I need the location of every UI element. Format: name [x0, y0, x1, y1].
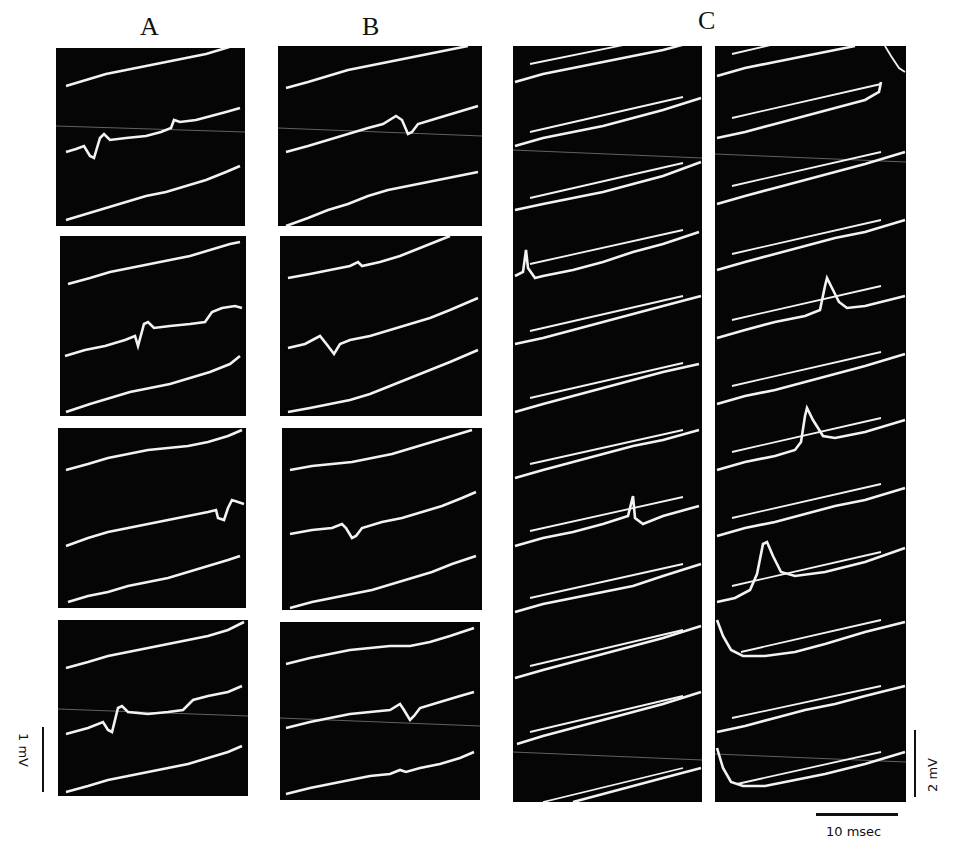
trace-group [282, 428, 482, 610]
panel-b-frame-3 [282, 428, 482, 610]
panel-b-frame-1 [278, 46, 482, 226]
panel-c-strip-left [513, 46, 702, 802]
panel-a-frame-4 [58, 620, 248, 796]
trace-group [58, 428, 246, 608]
voltage-scale-bar-left [42, 727, 44, 792]
voltage-scale-label-right: 2 mV [925, 758, 940, 792]
trace-group [56, 48, 245, 226]
time-scale-label: 10 msec [826, 824, 881, 839]
panel-b-frame-2 [280, 236, 482, 416]
trace-group [715, 46, 906, 802]
panel-c-strip-right [715, 46, 906, 802]
column-label-c: C [698, 8, 715, 34]
trace-group [60, 236, 246, 416]
trace-group [278, 46, 482, 226]
column-label-b: B [362, 14, 379, 40]
voltage-scale-bar-right [914, 730, 916, 797]
time-scale-bar [816, 813, 898, 816]
trace-group [513, 46, 702, 802]
trace-group [280, 622, 480, 800]
panel-b-frame-4 [280, 622, 480, 800]
trace-group [58, 620, 248, 796]
caption-cropped [0, 858, 953, 865]
column-label-a: A [140, 14, 159, 40]
panel-a-frame-2 [60, 236, 246, 416]
voltage-scale-label-left: 1 mV [16, 733, 31, 767]
trace-group [280, 236, 482, 416]
panel-a-frame-1 [56, 48, 245, 226]
panel-a-frame-3 [58, 428, 246, 608]
